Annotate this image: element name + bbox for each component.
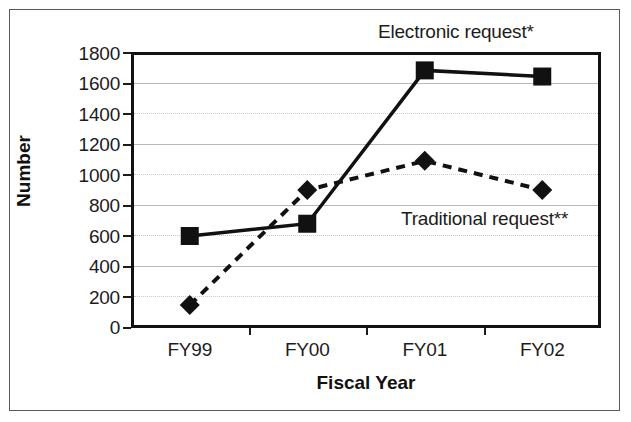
data-point-marker-square [298,215,316,233]
x-tick-mark [366,328,368,335]
chart-figure: Number 1800 1600 1400 1200 1000 800 600 … [0,0,631,422]
annotation-electronic-request: Electronic request* [378,22,534,41]
data-point-marker-square [533,68,551,86]
x-tick-label-fy99: FY99 [130,340,250,359]
annotation-traditional-request: Traditional request** [401,209,568,228]
x-tick-label-fy00: FY00 [247,340,367,359]
data-point-marker-diamond [180,295,200,315]
data-point-marker-diamond [415,151,435,171]
data-point-marker-square [416,61,434,79]
data-point-marker-square [181,227,199,245]
x-tick-label-fy01: FY01 [365,340,485,359]
data-point-marker-diamond [532,180,552,200]
x-tick-mark [484,328,486,335]
x-tick-mark [249,328,251,335]
traditional-request-line [190,161,543,305]
data-point-marker-diamond [297,180,317,200]
x-axis-title: Fiscal Year [131,372,601,394]
x-tick-label-fy02: FY02 [482,340,602,359]
